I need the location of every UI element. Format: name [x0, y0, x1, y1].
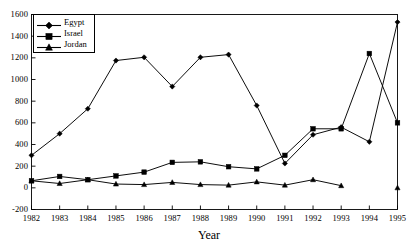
y-axis-tick-label: 0	[0, 182, 28, 192]
data-point-marker-diamond	[113, 58, 118, 63]
legend-item-label: Israel	[64, 28, 83, 39]
series-line	[32, 180, 342, 186]
data-point-marker-diamond	[254, 103, 259, 108]
line-chart: 16001400120010008006004002000-200 198219…	[0, 0, 418, 250]
legend-marker-triangle-icon	[36, 39, 62, 50]
data-point-marker-diamond	[367, 139, 372, 144]
data-point-marker-square	[283, 153, 288, 158]
legend-item-label: Jordan	[64, 39, 87, 50]
y-axis-tick-label: 200	[0, 161, 28, 171]
y-axis-tick-label: 400	[0, 139, 28, 149]
data-point-marker-square	[170, 160, 175, 165]
data-point-marker-square	[198, 160, 203, 165]
data-point-marker-diamond	[226, 52, 231, 57]
data-point-marker-triangle	[310, 177, 315, 182]
legend-item-israel[interactable]: Israel	[34, 28, 94, 39]
y-axis-tick-label: 1400	[0, 31, 28, 41]
data-point-marker-diamond	[395, 19, 400, 24]
y-axis-tick-label: 1600	[0, 9, 28, 19]
data-point-marker-square	[367, 51, 372, 56]
y-axis-tick-label: 1200	[0, 52, 28, 62]
x-axis-tick-label: 1995	[382, 213, 414, 223]
legend-marker-diamond-icon	[36, 17, 62, 28]
series-line	[32, 54, 398, 181]
y-axis-tick-label: 1000	[0, 74, 28, 84]
y-axis-tick-label: 600	[0, 117, 28, 127]
data-point-marker-square	[114, 174, 119, 179]
legend-marker-square-icon	[36, 28, 62, 39]
chart-legend: EgyptIsraelJordan	[33, 14, 95, 53]
series-israel	[29, 51, 400, 183]
y-axis-tick-label: 800	[0, 96, 28, 106]
data-point-marker-square	[142, 170, 147, 175]
data-point-marker-square	[226, 164, 231, 169]
data-point-marker-square	[395, 121, 400, 126]
data-point-marker-triangle	[395, 185, 400, 190]
data-point-marker-square	[311, 126, 316, 131]
x-axis-title: Year	[0, 228, 418, 243]
legend-item-egypt[interactable]: Egypt	[34, 17, 94, 28]
legend-item-label: Egypt	[64, 17, 84, 28]
data-point-marker-square	[57, 174, 62, 179]
data-point-marker-square	[254, 167, 259, 172]
data-point-marker-square	[339, 126, 344, 131]
data-point-marker-triangle	[254, 179, 259, 184]
legend-item-jordan[interactable]: Jordan	[34, 39, 94, 50]
